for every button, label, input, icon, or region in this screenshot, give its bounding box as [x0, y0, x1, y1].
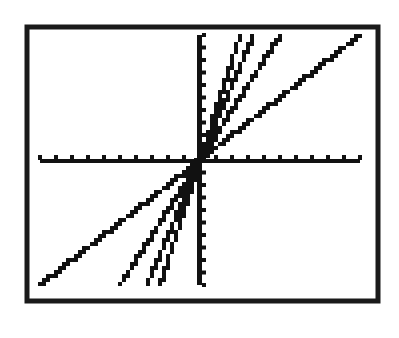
calculator-graph-screen: [0, 0, 399, 338]
